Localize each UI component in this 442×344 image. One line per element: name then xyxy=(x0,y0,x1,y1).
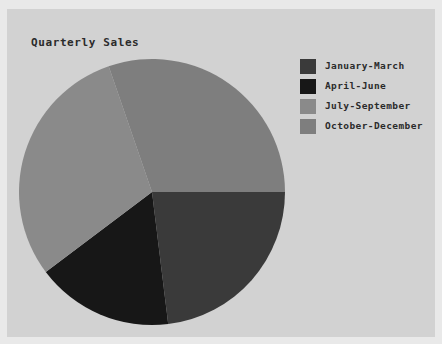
legend-swatch-icon xyxy=(300,119,316,134)
legend-item-label: April-June xyxy=(325,81,386,91)
legend-swatch-icon xyxy=(300,79,316,94)
legend-swatch-icon xyxy=(300,59,316,74)
pie-slice-group: January-March 23%April-June 17%July-Sept… xyxy=(19,59,285,325)
legend-swatch-icon xyxy=(300,99,316,114)
pie-slice[interactable]: January-March 23% xyxy=(152,192,285,324)
legend-item[interactable]: October-December xyxy=(300,116,435,136)
legend-item[interactable]: April-June xyxy=(300,76,435,96)
legend-item[interactable]: January-March xyxy=(300,56,435,76)
chart-legend: January-MarchApril-JuneJuly-SeptemberOct… xyxy=(300,56,435,136)
legend-item-label: January-March xyxy=(325,61,405,71)
legend-item-label: July-September xyxy=(325,101,411,111)
chart-panel: Quarterly Sales January-March 23%April-J… xyxy=(7,9,435,337)
legend-item-label: October-December xyxy=(325,121,423,131)
screenshot-root: Quarterly Sales January-March 23%April-J… xyxy=(0,0,442,344)
legend-item[interactable]: July-September xyxy=(300,96,435,116)
